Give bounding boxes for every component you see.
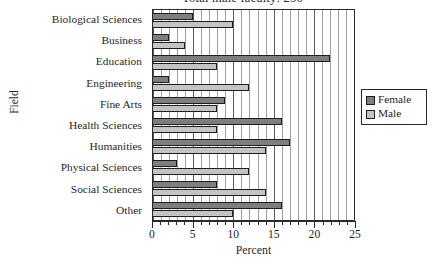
- bar-group: [153, 52, 354, 73]
- category-label: Health Sciences: [0, 115, 146, 136]
- bar-female: [153, 181, 217, 188]
- bar-group: [153, 10, 354, 31]
- x-tick-major: [355, 221, 356, 228]
- x-tick-minor: [176, 221, 177, 225]
- category-label: Other: [0, 200, 146, 221]
- x-tick-label: 20: [309, 228, 321, 241]
- chart-title: Total male faculty: 250: [0, 0, 433, 6]
- x-tick-minor: [217, 221, 218, 225]
- legend-swatch-icon: [366, 110, 375, 119]
- x-tick-minor: [258, 221, 259, 225]
- x-tick-minor: [306, 221, 307, 225]
- category-label: Biological Sciences: [0, 9, 146, 30]
- x-tick-label: 0: [149, 228, 155, 241]
- x-tick-minor: [241, 221, 242, 225]
- x-tick-major: [274, 221, 275, 228]
- x-tick-minor: [266, 221, 267, 225]
- bar-female: [153, 97, 225, 104]
- x-tick-minor: [282, 221, 283, 225]
- bar-male: [153, 42, 185, 49]
- bar-group: [153, 94, 354, 115]
- bar-male: [153, 168, 249, 175]
- bar-female: [153, 13, 193, 20]
- legend-label: Female: [378, 94, 411, 105]
- x-tick-minor: [323, 221, 324, 225]
- x-tick-minor: [201, 221, 202, 225]
- bar-group: [153, 115, 354, 136]
- legend-item-female[interactable]: Female: [366, 93, 423, 107]
- x-axis-tick-labels: 0510152025: [152, 228, 355, 244]
- legend-label: Male: [378, 108, 401, 119]
- bar-female: [153, 118, 282, 125]
- x-tick-label: 15: [268, 228, 280, 241]
- bar-male: [153, 126, 217, 133]
- x-tick-major: [193, 221, 194, 228]
- bar-female: [153, 34, 169, 41]
- legend: FemaleMale: [361, 89, 427, 125]
- bar-group: [153, 73, 354, 94]
- legend-swatch-icon: [366, 96, 375, 105]
- category-label: Physical Sciences: [0, 157, 146, 178]
- category-label: Education: [0, 51, 146, 72]
- gridline-major: [354, 10, 355, 220]
- category-label: Business: [0, 30, 146, 51]
- bar-male: [153, 105, 217, 112]
- plot-area: [152, 9, 355, 221]
- x-tick-minor: [331, 221, 332, 225]
- bar-group: [153, 178, 354, 199]
- bar-group: [153, 136, 354, 157]
- x-tick-minor: [184, 221, 185, 225]
- category-label: Humanities: [0, 136, 146, 157]
- category-label: Social Sciences: [0, 179, 146, 200]
- bar-male: [153, 21, 233, 28]
- x-axis-title: Percent: [152, 243, 355, 258]
- bar-female: [153, 76, 169, 83]
- x-tick-minor: [298, 221, 299, 225]
- bar-group: [153, 157, 354, 178]
- x-tick-label: 5: [190, 228, 196, 241]
- bar-male: [153, 189, 266, 196]
- bar-female: [153, 55, 330, 62]
- x-tick-minor: [168, 221, 169, 225]
- x-tick-major: [152, 221, 153, 228]
- bar-male: [153, 147, 266, 154]
- x-tick-minor: [160, 221, 161, 225]
- category-label: Fine Arts: [0, 94, 146, 115]
- x-tick-minor: [339, 221, 340, 225]
- bar-group: [153, 199, 354, 220]
- bar-female: [153, 139, 290, 146]
- x-tick-major: [233, 221, 234, 228]
- bar-series-container: [153, 10, 354, 220]
- x-tick-minor: [249, 221, 250, 225]
- category-label: Engineering: [0, 73, 146, 94]
- chart-figure: Total male faculty: 250 Field Biological…: [0, 0, 433, 260]
- bar-group: [153, 31, 354, 52]
- legend-item-male[interactable]: Male: [366, 107, 423, 121]
- bar-male: [153, 63, 217, 70]
- y-axis-category-labels: Biological SciencesBusinessEducationEngi…: [0, 9, 146, 221]
- x-tick-label: 10: [227, 228, 239, 241]
- bar-female: [153, 202, 282, 209]
- x-tick-minor: [347, 221, 348, 225]
- bar-male: [153, 84, 249, 91]
- bar-male: [153, 210, 233, 217]
- x-tick-major: [314, 221, 315, 228]
- x-tick-label: 25: [349, 228, 361, 241]
- x-tick-minor: [290, 221, 291, 225]
- x-tick-minor: [209, 221, 210, 225]
- bar-female: [153, 160, 177, 167]
- x-tick-minor: [225, 221, 226, 225]
